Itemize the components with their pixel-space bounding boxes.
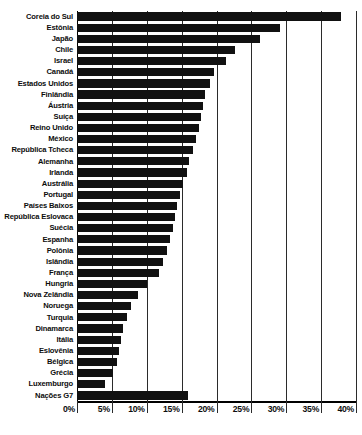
category-label: Estônia	[0, 22, 76, 33]
category-label: Finlândia	[0, 89, 76, 100]
bar-row	[77, 145, 356, 156]
bar-row	[77, 323, 356, 334]
category-label: Estados Unidos	[0, 78, 76, 89]
bar-row	[77, 334, 356, 345]
bar-row	[77, 301, 356, 312]
bar-series	[77, 11, 356, 401]
axis-tick-label: 20%	[198, 404, 217, 414]
bar-row	[77, 390, 356, 401]
bar-row	[77, 290, 356, 301]
bar	[77, 313, 127, 321]
axis-tick	[356, 401, 357, 413]
bar	[77, 124, 199, 132]
bar-row	[77, 178, 356, 189]
bar	[77, 68, 214, 76]
category-label: Reino Unido	[0, 122, 76, 133]
axis-tick	[77, 401, 78, 413]
bar-row	[77, 67, 356, 78]
bar	[77, 235, 170, 243]
bar	[77, 157, 189, 165]
bar-row	[77, 33, 356, 44]
category-label: Irlanda	[0, 167, 76, 178]
bar-row	[77, 156, 356, 167]
bar	[77, 336, 121, 344]
bar-row	[77, 234, 356, 245]
category-label: Eslovênia	[0, 345, 76, 356]
bar-row	[77, 167, 356, 178]
bar	[77, 135, 196, 143]
axis-tick-label: 30%	[268, 404, 287, 414]
category-label: Grécia	[0, 368, 76, 379]
axis-tick	[147, 401, 148, 413]
axis-tick-label: 15%	[163, 404, 182, 414]
category-label: Portugal	[0, 189, 76, 200]
category-axis-labels: Coreia do SulEstôniaJapãoChileIsraelCana…	[0, 11, 76, 401]
bar	[77, 246, 167, 254]
bar	[77, 180, 183, 188]
bar	[77, 46, 235, 54]
bar	[77, 391, 188, 401]
axis-tick-label: 35%	[303, 404, 322, 414]
category-label: Alemanha	[0, 156, 76, 167]
category-label: Dinamarca	[0, 323, 76, 334]
bar	[77, 57, 226, 65]
axis-tick	[286, 401, 287, 413]
axis-tick-label: 0%	[63, 404, 77, 414]
category-label: Coreia do Sul	[0, 11, 76, 22]
bar-row	[77, 44, 356, 55]
bar	[77, 191, 180, 199]
bar-row	[77, 267, 356, 278]
axis-tick-label: 25%	[233, 404, 252, 414]
category-label: República Eslovaca	[0, 212, 76, 223]
bar-row	[77, 223, 356, 234]
bar-row	[77, 345, 356, 356]
bar	[77, 146, 193, 154]
bar	[77, 324, 123, 332]
category-label: México	[0, 134, 76, 145]
bar	[77, 113, 201, 121]
category-label: Noruega	[0, 301, 76, 312]
gridline	[356, 11, 357, 401]
category-label: Nova Zelândia	[0, 290, 76, 301]
bar-row	[77, 312, 356, 323]
category-label: Austrália	[0, 178, 76, 189]
bar	[77, 291, 138, 299]
bar-row	[77, 134, 356, 145]
axis-tick-label: 40%	[337, 404, 356, 414]
bar	[77, 79, 210, 87]
bar-row	[77, 189, 356, 200]
bar	[77, 202, 177, 210]
category-label: Polônia	[0, 245, 76, 256]
category-label: Espanha	[0, 234, 76, 245]
value-axis: 0%5%10%15%20%25%30%35%40%	[0, 401, 362, 421]
bar	[77, 224, 173, 232]
bar-row	[77, 368, 356, 379]
axis-tick	[182, 401, 183, 413]
category-label: Japão	[0, 33, 76, 44]
category-label: França	[0, 267, 76, 278]
bar-row	[77, 111, 356, 122]
bar	[77, 168, 187, 176]
bar-row	[77, 245, 356, 256]
category-label: Suíça	[0, 111, 76, 122]
category-label: Islândia	[0, 256, 76, 267]
category-label: Canadá	[0, 67, 76, 78]
axis-tick	[112, 401, 113, 413]
plot-area	[77, 11, 356, 401]
bar	[77, 258, 163, 266]
category-label: Suécia	[0, 223, 76, 234]
bar-row	[77, 89, 356, 100]
bar	[77, 347, 119, 355]
category-label: Chile	[0, 44, 76, 55]
category-label: Turquia	[0, 312, 76, 323]
bar-row	[77, 200, 356, 211]
category-label: Luxemburgo	[0, 379, 76, 390]
bar-row	[77, 256, 356, 267]
bar-row	[77, 22, 356, 33]
axis-tick-label: 10%	[128, 404, 147, 414]
bar	[77, 102, 203, 110]
bar	[77, 213, 175, 221]
bar-row	[77, 100, 356, 111]
bar-row	[77, 56, 356, 67]
bar	[77, 369, 113, 377]
